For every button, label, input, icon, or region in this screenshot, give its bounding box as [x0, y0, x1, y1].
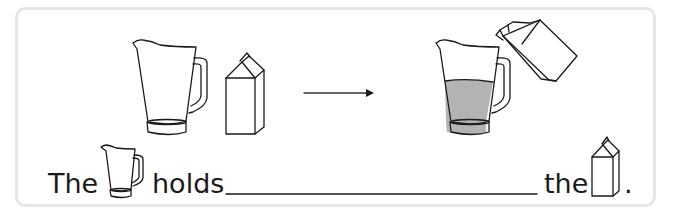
milk-carton-icon: [226, 53, 264, 134]
sentence-word-the: The: [48, 170, 98, 197]
inline-carton-icon: [592, 137, 619, 196]
sentence-word-the-2: the: [544, 170, 588, 197]
sentence-word-holds: holds: [152, 170, 224, 197]
sentence-period: .: [624, 170, 633, 197]
inline-jug-icon: [101, 145, 143, 198]
pouring-carton-icon: [496, 20, 577, 81]
right-arrow-icon: [304, 89, 374, 97]
filled-jug-icon: [436, 40, 510, 135]
empty-jug-icon: [133, 40, 207, 135]
answer-blank[interactable]: [228, 170, 536, 196]
